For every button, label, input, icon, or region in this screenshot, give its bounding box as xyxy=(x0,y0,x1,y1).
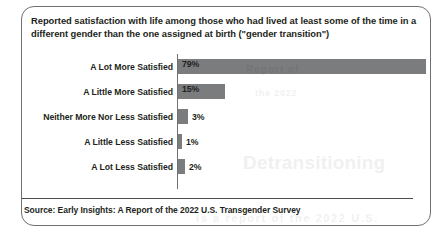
chart-title: Reported satisfaction with life among th… xyxy=(31,14,423,41)
bar-row: Neither More Nor Less Satisfied 3% xyxy=(22,104,432,129)
bar: 15% xyxy=(178,84,225,99)
bar-track: 15% xyxy=(178,79,428,104)
chart-card: Reported satisfaction with life among th… xyxy=(21,6,431,226)
bar-track: 1% xyxy=(178,129,428,154)
bar xyxy=(178,134,182,149)
bar xyxy=(178,109,188,124)
bar-row: A Lot Less Satisfied 2% xyxy=(22,154,432,179)
source-divider xyxy=(22,198,413,199)
category-label: Neither More Nor Less Satisfied xyxy=(22,112,173,122)
category-label: A Lot Less Satisfied xyxy=(22,162,173,172)
bar-row: A Little Less Satisfied 1% xyxy=(22,129,432,154)
bar: 79% xyxy=(178,59,426,74)
source-note: Source: Early Insights: A Report of the … xyxy=(24,205,301,215)
bar-value-label: 1% xyxy=(186,137,198,147)
bar-value-label: 15% xyxy=(182,84,199,94)
bar xyxy=(178,159,185,174)
category-label: A Lot More Satisfied xyxy=(22,62,173,72)
bar-value-label: 3% xyxy=(192,112,204,122)
category-label: A Little Less Satisfied xyxy=(22,137,173,147)
bar-value-label: 79% xyxy=(182,59,199,69)
bar-row: A Lot More Satisfied 79% xyxy=(22,54,432,79)
bar-track: 79% xyxy=(178,54,428,79)
bar-track: 2% xyxy=(178,154,428,179)
category-label: A Little More Satisfied xyxy=(22,87,173,97)
bar-track: 3% xyxy=(178,104,428,129)
bar-value-label: 2% xyxy=(189,162,201,172)
bar-row: A Little More Satisfied 15% xyxy=(22,79,432,104)
bar-chart-plot-area: A Lot More Satisfied 79% A Little More S… xyxy=(22,54,432,189)
